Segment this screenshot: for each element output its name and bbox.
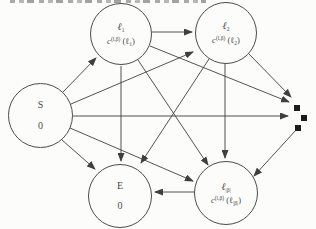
node-l2-cost: c(l,β) (ℓ2) <box>212 36 240 45</box>
edge-s-e <box>62 140 95 169</box>
edge-l2-e <box>141 59 209 163</box>
node-l1-label: ℓ1 <box>118 22 125 32</box>
node-l-beta-label: ℓ|β| <box>221 182 230 192</box>
node-l-beta-cost: c(l,β) (ℓ|β|) <box>211 196 241 205</box>
diagram-canvas: S 0 ℓ1 c(l,β) (ℓ1) ℓ2 c(l,β) (ℓ2) E 0 ℓ|… <box>0 0 316 229</box>
edge-s-l1 <box>62 58 96 93</box>
ellipsis-square-3 <box>295 125 301 131</box>
node-start-cost: 0 <box>38 121 43 131</box>
ellipsis-square-1 <box>294 105 300 111</box>
node-l1-cost: c(l,β) (ℓ1) <box>107 37 135 46</box>
node-end-cost: 0 <box>118 201 123 211</box>
edge-dots-lb <box>254 130 296 176</box>
node-l2-label: ℓ2 <box>223 21 230 31</box>
edge-l1-lb <box>138 60 208 165</box>
ellipsis-square-2 <box>301 115 307 121</box>
node-l-beta: ℓ|β| c(l,β) (ℓ|β|) <box>194 161 258 225</box>
node-end: E 0 <box>88 164 152 228</box>
node-start-label: S <box>38 100 44 110</box>
edge-l2-dots <box>249 54 291 97</box>
node-end-label: E <box>117 181 123 191</box>
node-start: S 0 <box>8 83 73 148</box>
node-l2: ℓ2 c(l,β) (ℓ2) <box>195 2 257 64</box>
node-l1: ℓ1 c(l,β) (ℓ1) <box>90 3 152 65</box>
